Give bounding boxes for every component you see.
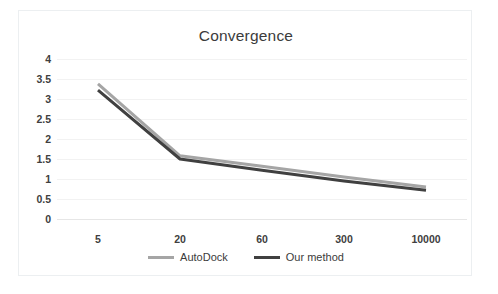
- y-axis-tick-label: 2: [45, 133, 51, 145]
- y-axis-tick-label: 3: [45, 93, 51, 105]
- gridline: [57, 219, 467, 220]
- x-axis-tick-label: 60: [256, 233, 268, 245]
- legend-swatch-icon: [254, 256, 280, 259]
- plot-area: 00.511.522.533.54: [57, 59, 467, 219]
- y-axis-tick-label: 0.5: [36, 193, 51, 205]
- legend-label: AutoDock: [180, 251, 228, 263]
- legend-swatch-icon: [148, 256, 174, 259]
- y-axis-tick-label: 0: [45, 213, 51, 225]
- y-axis-tick-label: 2.5: [36, 113, 51, 125]
- chart-title: Convergence: [19, 27, 473, 45]
- series-line: [98, 90, 426, 190]
- legend-item[interactable]: AutoDock: [148, 251, 228, 263]
- x-axis-tick-labels: 5206030010000: [57, 227, 467, 249]
- x-axis-tick-label: 10000: [411, 233, 440, 245]
- y-axis-tick-label: 3.5: [36, 73, 51, 85]
- y-axis-tick-label: 4: [45, 53, 51, 65]
- y-axis-tick-label: 1.5: [36, 153, 51, 165]
- chart-legend: AutoDockOur method: [19, 251, 473, 263]
- x-axis-tick-label: 5: [95, 233, 101, 245]
- x-axis-tick-label: 20: [174, 233, 186, 245]
- series-lines: [57, 59, 467, 219]
- legend-item[interactable]: Our method: [254, 251, 344, 263]
- y-axis-tick-label: 1: [45, 173, 51, 185]
- chart-card: Convergence 00.511.522.533.54 5206030010…: [18, 10, 472, 276]
- x-axis-tick-label: 300: [335, 233, 353, 245]
- legend-label: Our method: [286, 251, 344, 263]
